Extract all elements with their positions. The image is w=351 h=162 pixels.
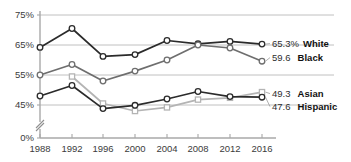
data-point-marker-hispanic — [227, 94, 233, 100]
data-point-marker-black — [227, 45, 233, 51]
data-point-marker-white — [164, 38, 170, 44]
data-point-marker-hispanic — [132, 103, 138, 109]
series-end-name-black: Black — [298, 52, 324, 63]
data-point-marker-white — [100, 54, 106, 60]
data-point-marker-asian — [69, 74, 74, 79]
x-axis-tick-label-1992: 1992 — [61, 143, 82, 154]
x-axis-tick-label-2016: 2016 — [251, 143, 272, 154]
data-series-group — [37, 26, 265, 114]
data-point-marker-black — [37, 72, 43, 78]
data-point-marker-hispanic — [164, 96, 170, 102]
leader-line-asian — [266, 92, 271, 94]
data-point-marker-black — [164, 57, 170, 63]
data-point-marker-white — [259, 41, 265, 47]
data-point-marker-hispanic — [259, 94, 265, 100]
x-axis-tick-labels: 19881992199620002004200820122016 — [29, 143, 272, 154]
x-axis-tick-label-2012: 2012 — [219, 143, 240, 154]
data-point-marker-white — [132, 52, 138, 58]
y-axis-tick-label: 45% — [15, 99, 35, 110]
data-point-marker-hispanic — [100, 106, 106, 112]
series-end-value-white: 65.3% — [272, 38, 299, 49]
x-axis-tick-label-2008: 2008 — [187, 143, 208, 154]
data-point-marker-white — [37, 45, 43, 51]
y-axis-tick-label: 55% — [15, 69, 35, 80]
data-point-marker-asian — [132, 108, 137, 113]
series-end-name-hispanic: Hispanic — [298, 101, 338, 112]
data-point-marker-white — [69, 26, 75, 32]
data-point-marker-white — [227, 39, 233, 45]
data-point-marker-black — [100, 78, 106, 84]
y-axis-tick-labels: 75%65%55%45%0% — [15, 9, 35, 143]
data-point-marker-hispanic — [37, 93, 43, 99]
x-axis-tick-label-1988: 1988 — [29, 143, 50, 154]
leader-line-white — [266, 44, 271, 45]
data-point-marker-black — [195, 42, 201, 48]
voter-turnout-line-chart: 75%65%55%45%0% 1988199219962000200420082… — [0, 0, 351, 162]
series-end-name-white: White — [303, 38, 329, 49]
leader-line-black — [266, 58, 271, 62]
data-point-marker-asian — [195, 97, 200, 102]
x-axis-tick-label-1996: 1996 — [92, 143, 113, 154]
series-end-value-asian: 49.3 — [272, 88, 291, 99]
y-axis-tick-label: 0% — [20, 132, 34, 143]
line-chart-container: 75%65%55%45%0% 1988199219962000200420082… — [0, 0, 351, 162]
data-point-marker-black — [132, 68, 138, 74]
data-point-marker-black — [259, 58, 265, 64]
data-point-marker-black — [69, 62, 75, 68]
x-axis-tick-label-2000: 2000 — [124, 143, 145, 154]
data-point-marker-asian — [164, 105, 169, 110]
series-end-value-black: 59.6 — [272, 52, 291, 63]
series-end-value-hispanic: 47.6 — [272, 101, 291, 112]
y-axis-tick-label: 65% — [15, 39, 35, 50]
y-axis-tick-label: 75% — [15, 9, 35, 20]
series-end-name-asian: Asian — [298, 88, 324, 99]
x-axis-tick-label-2004: 2004 — [156, 143, 177, 154]
data-point-marker-hispanic — [195, 89, 201, 95]
data-point-marker-hispanic — [69, 83, 75, 89]
